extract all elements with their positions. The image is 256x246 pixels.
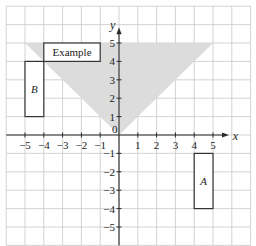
- shape-b-label: B: [31, 83, 38, 95]
- shape-example-label: Example: [52, 46, 91, 58]
- y-tick-label: 4: [110, 55, 116, 67]
- coordinate-grid-diagram: x y 0 −5−4−3−2−11234554321−1−2−3−4−5 Exa…: [0, 0, 256, 246]
- x-tick-label: 4: [191, 139, 197, 151]
- x-axis-label: x: [232, 129, 239, 143]
- x-tick-label: −3: [57, 139, 69, 151]
- shape-a: A: [194, 153, 213, 208]
- y-tick-label: 1: [110, 111, 116, 123]
- x-tick-label: −4: [38, 139, 50, 151]
- y-tick-label: −1: [103, 147, 115, 159]
- y-tick-label: −2: [103, 166, 115, 178]
- origin-label: 0: [112, 123, 118, 135]
- y-axis-arrow-icon: [116, 27, 121, 34]
- shape-example: Example: [44, 43, 100, 61]
- y-axis-label: y: [109, 18, 116, 32]
- x-tick-label: −5: [19, 139, 31, 151]
- x-tick-label: −2: [76, 139, 88, 151]
- x-tick-label: 5: [210, 139, 216, 151]
- y-tick-label: 3: [110, 74, 116, 86]
- x-axis-arrow-icon: [222, 132, 229, 137]
- x-tick-label: 3: [173, 139, 179, 151]
- x-tick-label: 1: [135, 139, 141, 151]
- grid-lines: [6, 6, 250, 245]
- x-tick-label: 2: [154, 139, 160, 151]
- y-tick-label: −4: [103, 203, 115, 215]
- shape-b: B: [25, 61, 44, 116]
- y-tick-label: −3: [103, 184, 115, 196]
- y-tick-label: −5: [103, 221, 115, 233]
- y-tick-label: 2: [110, 92, 116, 104]
- shape-a-label: A: [199, 175, 207, 187]
- y-tick-label: 5: [110, 37, 116, 49]
